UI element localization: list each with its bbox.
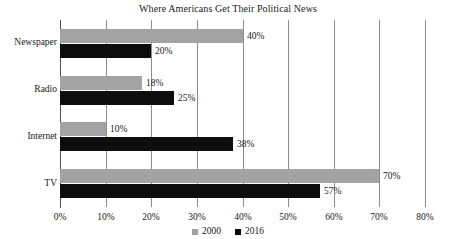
bar-newspaper-2000[interactable] [60, 29, 243, 43]
x-tick-label: 70% [359, 211, 399, 223]
bar-value-label: 70% [383, 169, 400, 183]
bar-radio-2016[interactable] [60, 91, 174, 105]
bar-value-label: 57% [324, 184, 341, 198]
political-news-bar-chart: Where Americans Get Their Political News… [0, 0, 456, 239]
x-tick-label: 20% [131, 211, 171, 223]
x-tick-label: 0% [40, 211, 80, 223]
plot-area: 40%20%18%25%10%38%70%57% [60, 20, 425, 207]
x-tick-label: 80% [405, 211, 445, 223]
category-label-newspaper: Newspaper [1, 37, 57, 48]
category-label-radio: Radio [1, 84, 57, 95]
bar-tv-2016[interactable] [60, 184, 320, 198]
bar-tv-2000[interactable] [60, 169, 379, 183]
legend-item-2000[interactable]: 2000 [192, 226, 221, 237]
bar-internet-2000[interactable] [60, 122, 106, 136]
bar-value-label: 40% [247, 29, 264, 43]
x-tick-label: 10% [86, 211, 126, 223]
gridline [379, 20, 380, 207]
legend-label: 2016 [245, 226, 264, 237]
bar-radio-2000[interactable] [60, 76, 142, 90]
category-label-internet: Internet [1, 131, 57, 142]
legend-label: 2000 [202, 226, 221, 237]
x-tick-label: 60% [314, 211, 354, 223]
bar-newspaper-2016[interactable] [60, 44, 151, 58]
chart-title: Where Americans Get Their Political News [0, 3, 456, 15]
bar-internet-2016[interactable] [60, 137, 233, 151]
bar-value-label: 38% [237, 137, 254, 151]
legend-swatch-icon [235, 229, 241, 235]
category-label-tv: TV [1, 178, 57, 189]
x-tick-label: 30% [177, 211, 217, 223]
chart-legend: 20002016 [0, 226, 456, 237]
bar-value-label: 25% [178, 91, 195, 105]
gridline [425, 20, 426, 207]
bar-value-label: 10% [110, 122, 127, 136]
legend-item-2016[interactable]: 2016 [235, 226, 264, 237]
x-tick-label: 40% [223, 211, 263, 223]
bar-value-label: 20% [155, 44, 172, 58]
x-tick-label: 50% [268, 211, 308, 223]
legend-swatch-icon [192, 229, 198, 235]
bar-value-label: 18% [146, 76, 163, 90]
category-axis-labels: NewspaperRadioInternetTV [0, 20, 57, 207]
